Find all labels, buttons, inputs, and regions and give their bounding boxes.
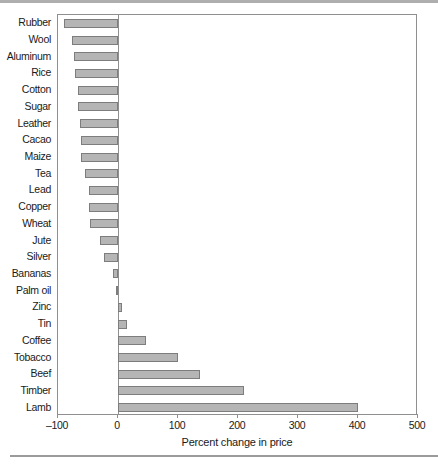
category-label: Tobacco [0, 351, 51, 363]
bar [113, 269, 118, 278]
x-tick-mark [357, 414, 358, 418]
x-tick-mark [417, 414, 418, 418]
category-label: Silver [0, 250, 51, 262]
top-rule [0, 0, 438, 3]
category-label: Zinc [0, 300, 51, 312]
bottom-rule [10, 455, 438, 457]
category-label: Aluminum [0, 50, 51, 62]
bar [75, 69, 118, 78]
category-label: Palm oil [0, 284, 51, 296]
x-tick-label: 300 [289, 419, 306, 431]
category-label: Copper [0, 200, 51, 212]
category-label: Bananas [0, 267, 51, 279]
x-tick-mark [237, 414, 238, 418]
category-label: Coffee [0, 334, 51, 346]
x-tick-mark [57, 414, 58, 418]
bar [74, 52, 118, 61]
bar [100, 236, 118, 245]
plot-area [57, 14, 417, 415]
bar [81, 153, 118, 162]
x-tick-mark [177, 414, 178, 418]
x-tick-label: 100 [169, 419, 186, 431]
bar [85, 169, 118, 178]
category-label: Rubber [0, 16, 51, 28]
bar [64, 19, 118, 28]
bar [89, 186, 118, 195]
x-tick-label: –100 [46, 419, 68, 431]
x-tick-mark [117, 414, 118, 418]
bar [78, 86, 118, 95]
x-axis-title: Percent change in price [57, 436, 417, 448]
category-label: Tin [0, 317, 51, 329]
category-label: Lamb [0, 401, 51, 413]
category-label: Beef [0, 367, 51, 379]
category-label: Leather [0, 117, 51, 129]
category-label: Timber [0, 384, 51, 396]
figure-panel: RubberWoolAluminumRiceCottonSugarLeather… [0, 0, 438, 464]
category-label: Maize [0, 150, 51, 162]
category-label: Lead [0, 183, 51, 195]
category-label: Sugar [0, 100, 51, 112]
bar [72, 36, 118, 45]
x-tick-label: 500 [409, 419, 426, 431]
x-tick-label: 400 [349, 419, 366, 431]
bar [104, 253, 118, 262]
bar [81, 136, 118, 145]
category-label: Wheat [0, 217, 51, 229]
category-label: Rice [0, 66, 51, 78]
bar [78, 102, 118, 111]
bar [118, 336, 146, 345]
bar [118, 320, 127, 329]
category-label: Cotton [0, 83, 51, 95]
x-tick-label: 0 [114, 419, 120, 431]
bar [80, 119, 118, 128]
bar [89, 203, 118, 212]
bar [118, 303, 122, 312]
category-label: Cacao [0, 133, 51, 145]
bar [118, 370, 200, 379]
category-label: Wool [0, 33, 51, 45]
x-tick-mark [297, 414, 298, 418]
bar [118, 386, 244, 395]
bar [90, 219, 118, 228]
bar [118, 353, 178, 362]
category-label: Tea [0, 167, 51, 179]
y-axis-labels: RubberWoolAluminumRiceCottonSugarLeather… [0, 14, 51, 415]
x-tick-label: 200 [229, 419, 246, 431]
category-label: Jute [0, 234, 51, 246]
bar [118, 403, 358, 412]
bar [116, 286, 118, 295]
